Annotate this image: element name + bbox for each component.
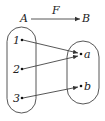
element-1-dot	[21, 39, 24, 42]
element-2-dot	[21, 68, 24, 71]
element-1-label: 1	[13, 34, 20, 47]
element-a-dot	[80, 53, 83, 56]
element-b-label: b	[84, 80, 91, 93]
element-3-label: 3	[13, 92, 20, 105]
set-a-header-label: A	[19, 12, 28, 25]
mapping-f-label: F	[51, 4, 60, 17]
set-b-oval	[67, 41, 99, 104]
mapping-diagram: B --> A F B 1 2 3 a b	[0, 0, 105, 121]
arrow-2-to-a	[23, 56, 78, 69]
element-2-label: 2	[12, 63, 20, 76]
arrow-1-to-a	[23, 40, 78, 53]
set-b-header-label: B	[81, 12, 90, 25]
element-b-dot	[80, 85, 83, 88]
element-3-dot	[21, 97, 24, 100]
element-a-label: a	[84, 48, 91, 61]
